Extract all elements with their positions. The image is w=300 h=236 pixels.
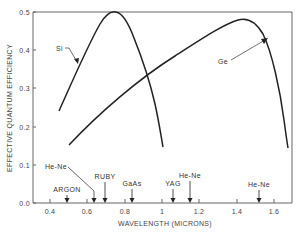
quantum-efficiency-chart: 0.0 0.1 0.2 0.3 0.4 0.5 0.4 0.6 0.8 1 1.… xyxy=(0,0,300,236)
x-tick-label: 0.8 xyxy=(120,208,131,215)
y-tick-label: 0.1 xyxy=(19,162,30,169)
hene-115-arrow-icon xyxy=(188,198,193,203)
argon-arrow-icon xyxy=(65,198,70,203)
ge-curve xyxy=(69,19,288,148)
x-tick-label: 1.2 xyxy=(194,208,205,215)
marker-label-hene-152: He-Ne xyxy=(248,181,270,188)
marker-label-ruby: RUBY xyxy=(94,173,115,180)
marker-label-hene-633: He-Ne xyxy=(45,163,67,170)
x-axis-title: WAVELENGTH (MICRONS) xyxy=(118,220,212,228)
gaas-arrow-icon xyxy=(130,198,135,203)
x-axis-tick-labels: 0.4 0.6 0.8 1 1.2 1.4 1.6 xyxy=(45,208,280,215)
y-tick-label: 0.3 xyxy=(19,85,30,92)
hene-152-arrow-icon xyxy=(257,198,262,203)
si-arrow-icon xyxy=(74,58,79,64)
plot-frame xyxy=(33,12,292,203)
ruby-arrow-icon xyxy=(103,198,108,203)
y-axis-tick-labels: 0.0 0.1 0.2 0.3 0.4 0.5 xyxy=(19,9,30,207)
ge-label: Ge xyxy=(218,58,228,65)
marker-label-gaas: GaAs xyxy=(122,180,141,187)
marker-label-hene-115: He-Ne xyxy=(179,172,201,179)
y-axis-title: EFFECTIVE QUANTUM EFFICIENCY xyxy=(6,44,14,172)
x-tick-label: 0.4 xyxy=(45,208,56,215)
ge-leader-line xyxy=(231,40,265,60)
marker-label-yag: YAG xyxy=(165,180,180,187)
x-tick-label: 1.4 xyxy=(232,208,243,215)
y-tick-label: 0.0 xyxy=(19,200,30,207)
x-tick-label: 1 xyxy=(160,208,164,215)
x-tick-label: 1.6 xyxy=(269,208,280,215)
x-axis-ticks xyxy=(50,199,274,203)
marker-label-argon: ARGON xyxy=(53,186,81,193)
y-tick-label: 0.2 xyxy=(19,124,30,131)
y-tick-label: 0.4 xyxy=(19,47,30,54)
si-label: Si xyxy=(56,45,63,52)
hene-633-arrow-icon xyxy=(92,198,97,203)
y-tick-label: 0.5 xyxy=(19,9,30,16)
yag-arrow-icon xyxy=(171,198,176,203)
laser-markers: ARGON He-Ne RUBY GaAs YAG He-Ne He-Ne xyxy=(45,163,270,203)
si-curve xyxy=(59,12,163,147)
x-tick-label: 0.6 xyxy=(82,208,93,215)
